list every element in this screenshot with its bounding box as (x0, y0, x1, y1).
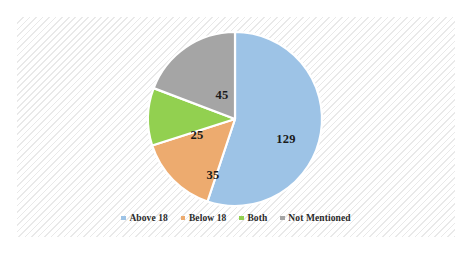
legend-swatch-icon (280, 216, 285, 221)
legend-label: Not Mentioned (288, 213, 350, 223)
legend-swatch-icon (239, 216, 244, 221)
pie-slice-value-below-18: 35 (207, 168, 220, 183)
legend-item-not-mentioned[interactable]: Not Mentioned (280, 213, 350, 223)
chart-legend: Above 18Below 18BothNot Mentioned (17, 213, 455, 223)
legend-swatch-icon (181, 216, 186, 221)
pie-slice-value-above-18: 129 (276, 132, 295, 147)
pie-svg (17, 17, 455, 237)
legend-item-below-18[interactable]: Below 18 (181, 213, 226, 223)
legend-swatch-icon (121, 216, 126, 221)
pie-chart-figure: 129352545 Above 18Below 18BothNot Mentio… (0, 0, 472, 253)
legend-item-above-18[interactable]: Above 18 (121, 213, 168, 223)
legend-label: Both (247, 213, 267, 223)
legend-item-both[interactable]: Both (239, 213, 267, 223)
legend-label: Above 18 (129, 213, 168, 223)
pie-slice-value-both: 25 (191, 128, 204, 143)
pie-chart (17, 17, 455, 237)
legend-label: Below 18 (189, 213, 226, 223)
pie-slice-value-not-mentioned: 45 (216, 88, 229, 103)
chart-plot-area: 129352545 Above 18Below 18BothNot Mentio… (17, 17, 455, 237)
